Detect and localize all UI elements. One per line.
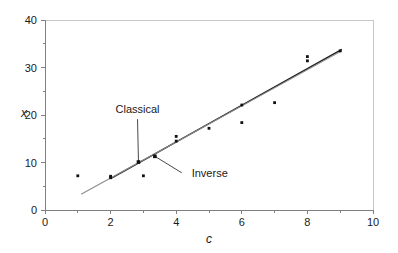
x-tick-label: 2 — [108, 216, 114, 228]
annotation-leader — [155, 156, 182, 172]
data-point — [306, 59, 309, 62]
annotation-leader — [138, 119, 139, 162]
x-tick-label: 6 — [239, 216, 245, 228]
annotation-arrow-head — [137, 160, 141, 164]
annotation-label-inverse: Inverse — [192, 167, 228, 179]
plot-axes — [45, 20, 373, 210]
x-tick-label: 4 — [173, 216, 179, 228]
data-point — [240, 104, 243, 107]
data-point — [76, 174, 79, 177]
y-tick-label: 0 — [31, 204, 37, 216]
annotation-arrow-head — [153, 155, 157, 159]
annotations: ClassicalInverse — [116, 103, 228, 179]
x-axis-title: c — [206, 232, 212, 246]
plot-frame — [45, 20, 373, 210]
y-tick-label: 30 — [25, 62, 37, 74]
y-axis-title: x — [20, 106, 28, 120]
data-point — [109, 175, 112, 178]
scatter-plot-svg: 0246810 010203040 ClassicalInverse c x — [0, 0, 398, 253]
y-tick-label: 40 — [25, 14, 37, 26]
data-point — [208, 127, 211, 130]
data-point — [306, 55, 309, 58]
y-tick-label: 10 — [25, 157, 37, 169]
data-point — [339, 49, 342, 52]
x-tick-label: 10 — [367, 216, 379, 228]
annotation-label-classical: Classical — [116, 103, 160, 115]
x-tick-label: 0 — [42, 216, 48, 228]
tick-marks — [41, 20, 373, 214]
x-tick-labels: 0246810 — [42, 216, 379, 228]
chart-container: 0246810 010203040 ClassicalInverse c x — [0, 0, 398, 253]
data-point — [142, 174, 145, 177]
data-point — [175, 135, 178, 138]
x-tick-label: 8 — [304, 216, 310, 228]
data-point — [273, 101, 276, 104]
data-point — [240, 121, 243, 124]
data-point — [175, 140, 178, 143]
